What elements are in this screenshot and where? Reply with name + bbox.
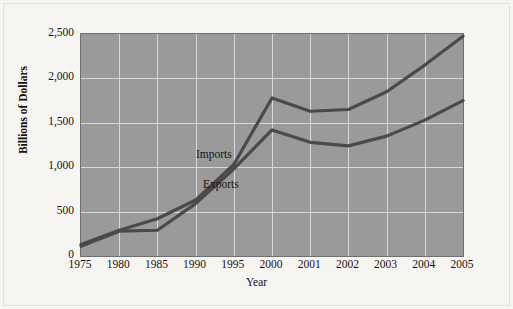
y-axis-tick-label: 2,000: [4, 71, 74, 83]
x-axis-tick-label: 2000: [260, 259, 283, 271]
x-axis-tick-label: 2002: [336, 259, 359, 271]
y-axis-tick-labels: 05001,0001,5002,0002,500: [0, 0, 74, 309]
x-axis-tick-label: 1975: [69, 259, 92, 271]
y-axis-title: Billions of Dollars: [17, 40, 29, 180]
x-axis-tick-label: 1995: [221, 259, 244, 271]
x-axis-tick-label: 2001: [298, 259, 321, 271]
y-axis-tick-label: 0: [4, 249, 74, 261]
x-axis-tick-label: 2004: [412, 259, 435, 271]
x-axis-tick-label: 1985: [145, 259, 168, 271]
y-axis-tick-label: 500: [4, 205, 74, 217]
y-axis-tick-label: 1,000: [4, 160, 74, 172]
y-axis-tick-label: 2,500: [4, 27, 74, 39]
x-axis-tick-label: 1990: [183, 259, 206, 271]
series-lines: [81, 34, 463, 256]
x-axis-tick-label: 2003: [374, 259, 397, 271]
x-axis-tick-label: 1980: [107, 259, 130, 271]
series-label-exports: Exports: [203, 178, 239, 190]
line-series-imports: [81, 36, 463, 244]
series-label-imports: Imports: [196, 148, 232, 160]
x-axis-tick-label: 2005: [451, 259, 474, 271]
x-axis-title: Year: [0, 276, 513, 288]
plot-area: [80, 33, 464, 257]
chart-figure: Billions of Dollars 05001,0001,5002,0002…: [0, 0, 513, 309]
y-axis-tick-label: 1,500: [4, 116, 74, 128]
